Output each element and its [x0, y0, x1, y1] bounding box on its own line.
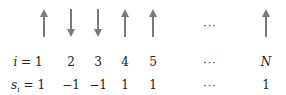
- site-index-label: i = 1: [0, 55, 58, 69]
- spin-down-arrow-icon: [94, 9, 102, 37]
- ellipsis: ···: [190, 57, 230, 70]
- spin-up-arrow-icon: [149, 9, 157, 37]
- ellipsis: ···: [190, 80, 230, 93]
- spin-down-arrow-icon: [67, 9, 75, 37]
- spin-value-label: si = 1: [0, 78, 58, 95]
- site-index-label: N: [246, 55, 286, 69]
- spin-value-label: 1: [133, 78, 173, 92]
- ellipsis: ···: [190, 20, 230, 33]
- spin-value-label: 1: [246, 78, 286, 92]
- spin-up-arrow-icon: [262, 9, 270, 37]
- spin-up-arrow-icon: [40, 9, 48, 37]
- site-index-label: 5: [133, 55, 173, 69]
- spin-up-arrow-icon: [121, 9, 129, 37]
